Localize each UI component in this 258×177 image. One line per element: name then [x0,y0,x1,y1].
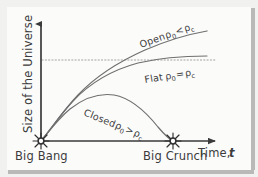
curve-label-flat-sub2: c [191,72,196,81]
curve-label-closed: Closed ρ 0 > ρ c [81,107,145,144]
curve-label-open-sub2: c [190,25,196,34]
cosmology-diagram: Size of the Universe Time, t Big Bang Bi… [0,0,258,177]
curve-open [41,31,207,141]
y-axis-label: Size of the Universe [21,15,35,133]
big-bang-starburst-icon [33,133,49,149]
figure-root: Size of the Universe Time, t Big Bang Bi… [0,0,258,177]
diagram-canvas: Size of the Universe Time, t Big Bang Bi… [0,0,258,177]
curve-label-closed-name: Closed [82,107,117,130]
big-crunch-label: Big Crunch [143,149,208,163]
curve-label-flat: Flat ρ 0 = ρ c [144,66,196,87]
big-crunch-starburst-icon [165,133,181,149]
big-bang-label: Big Bang [15,149,68,163]
x-axis-label-symbol: t [229,146,235,160]
curve-label-flat-name: Flat [144,71,164,85]
curve-label-open: Open ρ 0 < ρ c [138,20,196,52]
